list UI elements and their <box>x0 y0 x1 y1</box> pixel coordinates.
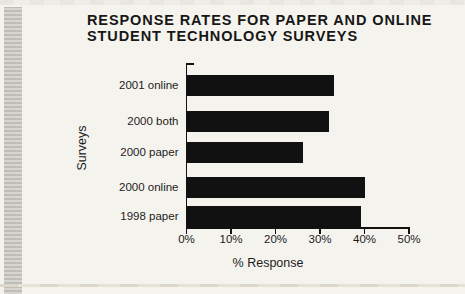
x-tick-label: 20% <box>264 233 287 245</box>
x-tick-label: 10% <box>219 233 242 245</box>
x-tick-label: 0% <box>178 233 195 245</box>
x-tick-label: 30% <box>308 233 331 245</box>
category-label: 1998 paper <box>0 210 179 222</box>
x-axis-label: % Response <box>233 256 304 270</box>
category-label: 2001 online <box>0 79 179 91</box>
scanned-page: RESPONSE RATES FOR PAPER AND ONLINE STUD… <box>0 0 465 294</box>
bar-2000-both <box>187 111 329 132</box>
plot-area: 0%10%20%30%40%50%2001 online2000 both200… <box>0 0 465 294</box>
x-tick-label: 40% <box>353 233 376 245</box>
x-axis-line <box>186 227 410 229</box>
bar-2000-online <box>187 177 365 198</box>
bar-1998-paper <box>187 206 361 227</box>
bar-2000-paper <box>187 142 303 163</box>
x-tick-label: 50% <box>397 233 420 245</box>
y-axis-top-cap <box>186 63 194 65</box>
category-label: 2000 online <box>0 181 179 193</box>
category-label: 2000 both <box>0 115 179 127</box>
bar-2001-online <box>187 75 334 96</box>
category-label: 2000 paper <box>0 146 179 158</box>
